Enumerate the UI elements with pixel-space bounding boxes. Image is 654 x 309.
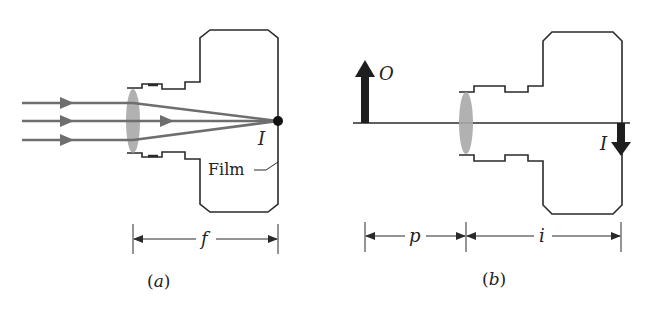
caption-b: (b) — [482, 269, 506, 289]
object-label: O — [379, 63, 394, 84]
panel-a: I Film f ((a)a) — [22, 30, 283, 291]
lens — [459, 92, 473, 154]
caption-a: ((a)a) — [147, 271, 170, 291]
image-point-dot — [273, 116, 283, 126]
panel-b: O I p i (b) — [353, 32, 631, 289]
object-arrow — [355, 60, 375, 123]
camera-optics-figure: I Film f ((a)a) O I — [0, 0, 654, 309]
film-leader-line — [254, 162, 278, 170]
image-arrow — [611, 123, 631, 156]
focal-length-label: f — [199, 228, 211, 249]
image-label-b: I — [599, 133, 608, 154]
object-distance-label: p — [409, 225, 421, 246]
image-distance-label: i — [539, 225, 545, 246]
image-label-a: I — [257, 128, 266, 149]
film-label: Film — [208, 160, 245, 179]
